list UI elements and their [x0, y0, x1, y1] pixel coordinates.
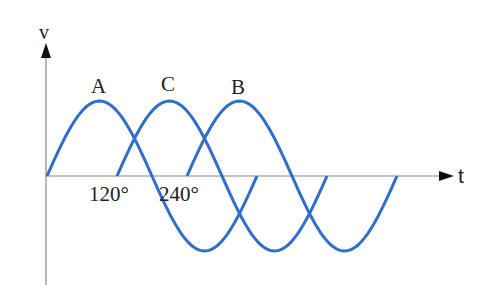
- three-phase-diagram: v t A C B 120° 240°: [0, 0, 485, 301]
- x-axis-arrow-icon: [439, 171, 454, 181]
- phase-label-c: C: [161, 72, 175, 96]
- y-axis-label: v: [39, 21, 49, 43]
- y-axis-arrow-icon: [41, 43, 51, 58]
- phase-label-b: B: [231, 75, 245, 99]
- tick-label-120: 120°: [89, 182, 129, 206]
- phase-label-a: A: [91, 74, 107, 98]
- tick-label-240: 240°: [159, 182, 199, 206]
- x-axis-label: t: [458, 164, 464, 187]
